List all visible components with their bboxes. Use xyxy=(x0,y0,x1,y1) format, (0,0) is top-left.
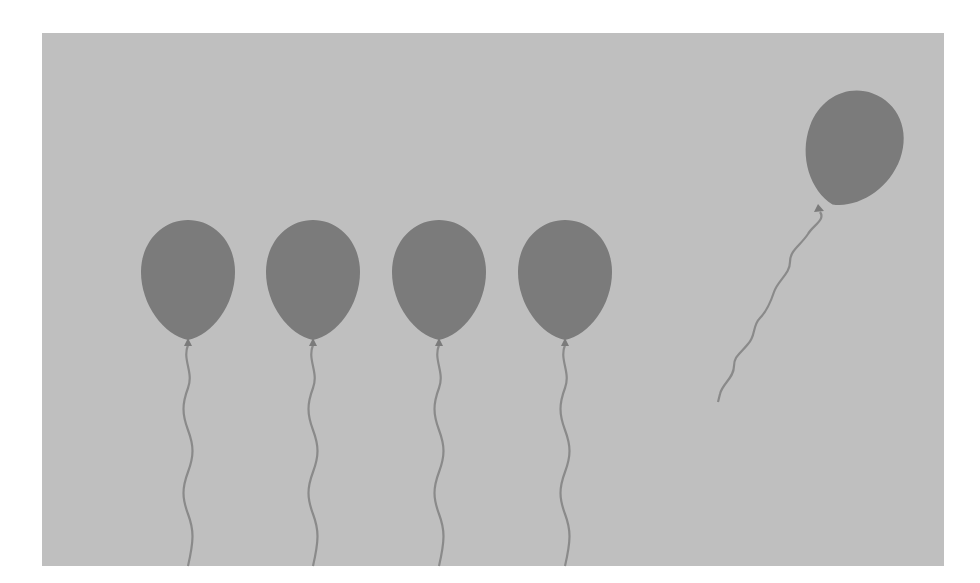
balloon-string-icon xyxy=(718,212,821,402)
balloon-string-icon xyxy=(184,345,193,566)
balloon-3 xyxy=(392,220,486,566)
balloon-body-icon xyxy=(266,220,360,340)
balloon-body-icon xyxy=(787,77,918,221)
balloon-2 xyxy=(266,220,360,566)
balloon-string-icon xyxy=(309,345,318,566)
balloon-body-icon xyxy=(518,220,612,340)
balloon-body-icon xyxy=(392,220,486,340)
balloon-string-icon xyxy=(561,345,570,566)
balloon-4 xyxy=(518,220,612,566)
balloon-string-icon xyxy=(435,345,444,566)
illustration-canvas xyxy=(0,0,980,583)
balloon-body-icon xyxy=(141,220,235,340)
balloon-knot-icon xyxy=(814,204,824,212)
balloon-scene xyxy=(0,0,980,583)
balloon-1 xyxy=(141,220,235,566)
balloon-floating xyxy=(718,77,918,402)
